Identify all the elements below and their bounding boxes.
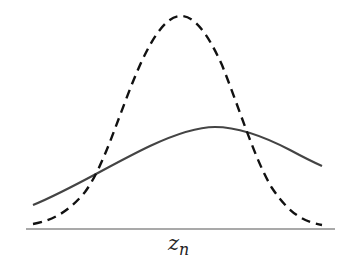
x-axis-label: zn [168, 231, 189, 259]
broad-solid-curve [33, 127, 322, 205]
narrow-dashed-curve [33, 16, 322, 225]
diagram-canvas [0, 0, 346, 265]
x-axis-label-main: z [168, 231, 179, 255]
x-axis-label-subscript: n [179, 240, 189, 259]
